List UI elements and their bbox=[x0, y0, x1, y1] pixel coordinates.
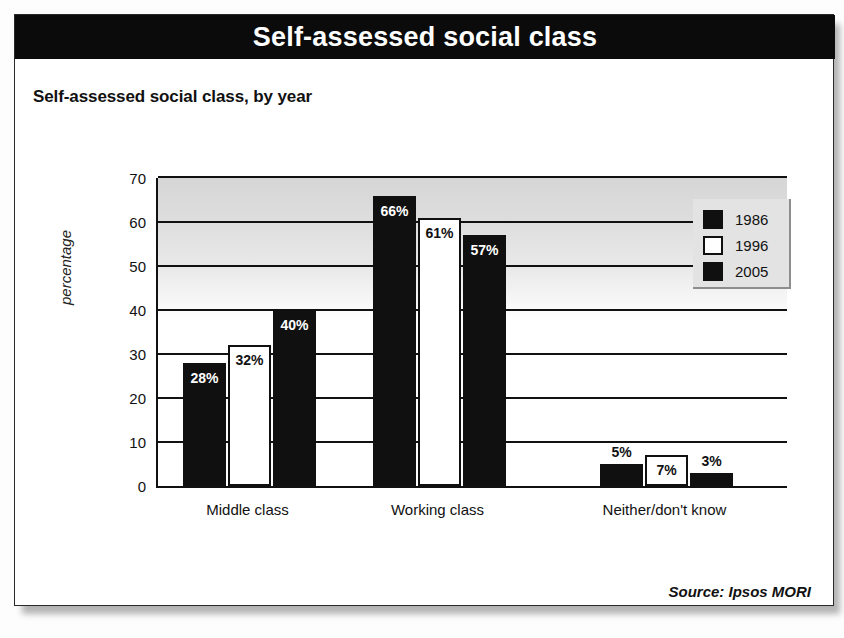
bar-value-label: 28% bbox=[184, 370, 225, 386]
legend-label: 2005 bbox=[735, 263, 768, 280]
y-axis-tick-label: 20 bbox=[112, 390, 146, 407]
bar[interactable]: 5% bbox=[600, 464, 643, 486]
bar-value-label: 7% bbox=[647, 462, 686, 478]
bar[interactable]: 40% bbox=[273, 310, 316, 486]
x-axis-category-label: Middle class bbox=[206, 501, 289, 518]
plot-top-border bbox=[158, 176, 787, 178]
bar[interactable]: 32% bbox=[228, 345, 271, 486]
legend-label: 1986 bbox=[735, 211, 768, 228]
source-attribution: Source: Ipsos MORI bbox=[668, 583, 811, 600]
y-axis-tick-label: 40 bbox=[112, 302, 146, 319]
bar-value-label: 40% bbox=[274, 317, 315, 333]
chart-page: Self-assessed social class Self-assessed… bbox=[0, 0, 844, 638]
legend-swatch-icon bbox=[703, 236, 723, 255]
bar[interactable]: 66% bbox=[373, 196, 416, 486]
legend-item[interactable]: 1996 bbox=[703, 232, 789, 258]
bar-value-label: 32% bbox=[230, 352, 269, 368]
y-axis-tick-label: 30 bbox=[112, 346, 146, 363]
bar[interactable]: 61% bbox=[418, 218, 461, 486]
legend-label: 1996 bbox=[735, 237, 768, 254]
page-title: Self-assessed social class bbox=[253, 24, 597, 51]
chart-card: Self-assessed social class Self-assessed… bbox=[14, 14, 834, 606]
x-axis-category-label: Neither/don't know bbox=[603, 501, 727, 518]
title-banner: Self-assessed social class bbox=[15, 15, 835, 59]
y-axis-tick-label: 0 bbox=[112, 478, 146, 495]
bar-value-label: 57% bbox=[464, 242, 505, 258]
y-axis-tick-label: 10 bbox=[112, 434, 146, 451]
y-axis-title: percentage bbox=[57, 230, 74, 305]
plot-baseline bbox=[156, 486, 787, 488]
chart-legend: 198619962005 bbox=[693, 199, 791, 289]
legend-swatch-icon bbox=[703, 262, 723, 281]
bar[interactable]: 57% bbox=[463, 235, 506, 486]
chart-subtitle: Self-assessed social class, by year bbox=[33, 87, 312, 107]
bar-value-label: 5% bbox=[601, 444, 642, 460]
y-axis-ticks: 010203040506070 bbox=[110, 178, 146, 486]
legend-item[interactable]: 2005 bbox=[703, 258, 789, 284]
legend-item[interactable]: 1986 bbox=[703, 206, 789, 232]
legend-swatch-icon bbox=[703, 210, 723, 229]
bar[interactable]: 28% bbox=[183, 363, 226, 486]
bar-value-label: 61% bbox=[420, 225, 459, 241]
bar-value-label: 66% bbox=[374, 203, 415, 219]
x-axis-category-label: Working class bbox=[391, 501, 484, 518]
y-axis-tick-label: 70 bbox=[112, 170, 146, 187]
bar[interactable]: 7% bbox=[645, 455, 688, 486]
bar[interactable]: 3% bbox=[690, 473, 733, 486]
y-axis-tick-label: 60 bbox=[112, 214, 146, 231]
y-axis-tick-label: 50 bbox=[112, 258, 146, 275]
bar-value-label: 3% bbox=[691, 453, 732, 469]
